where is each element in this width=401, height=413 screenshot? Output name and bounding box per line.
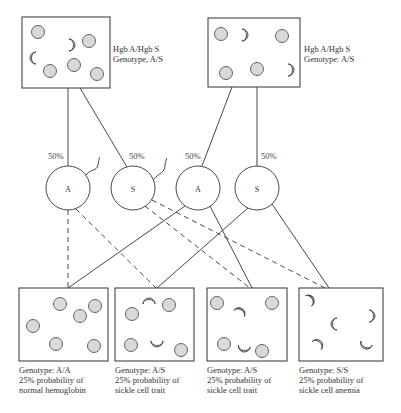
gamete-4-percent: 50% bbox=[261, 151, 277, 161]
offspring-4-label: Genotype: S/S 25% probability of sickle … bbox=[299, 365, 363, 395]
offspring-4-outcome: sickle cell anemia bbox=[299, 385, 363, 395]
gamete-3-percent: 50% bbox=[185, 151, 201, 161]
gamete-1-allele: A bbox=[65, 185, 71, 194]
dashed-lines bbox=[68, 200, 325, 288]
gamete-2-allele: S bbox=[131, 185, 135, 194]
offspring-4-probability: 25% probability of bbox=[299, 375, 363, 385]
solid-lines bbox=[68, 204, 329, 288]
gamete-4-allele: S bbox=[255, 185, 259, 194]
offspring-3-outcome: sickle cell trait bbox=[207, 385, 271, 395]
parent-1-genotype: Genotype, A/S bbox=[113, 54, 163, 64]
offspring-1-genotype: Genotype: A/A bbox=[19, 365, 86, 375]
offspring-2-outcome: sickle cell trait bbox=[115, 385, 179, 395]
offspring-3-label: Genotype: A/S 25% probability of sickle … bbox=[207, 365, 271, 395]
offspring-2-label: Genotype: A/S 25% probability of sickle … bbox=[115, 365, 179, 395]
offspring-4-genotype: Genotype: S/S bbox=[299, 365, 363, 375]
inheritance-diagram: Hgb A/Hgb S Genotype, A/S Hgb A/Hgb S Ge… bbox=[0, 0, 401, 413]
parent-2-hgb: Hgb A/Hgb S bbox=[304, 44, 354, 54]
offspring-1-outcome: normal hemoglobin bbox=[19, 385, 86, 395]
gamete-3-allele: A bbox=[195, 185, 201, 194]
parent-1-label: Hgb A/Hgb S Genotype, A/S bbox=[113, 44, 163, 64]
gamete-2-percent: 50% bbox=[129, 151, 145, 161]
offspring-2-genotype: Genotype: A/S bbox=[115, 365, 179, 375]
offspring-1-probability: 25% probability of bbox=[19, 375, 86, 385]
parent-1-hgb: Hgb A/Hgb S bbox=[113, 44, 163, 54]
parent-gamete-lines bbox=[68, 87, 257, 167]
gametes bbox=[46, 157, 279, 210]
offspring-3-genotype: Genotype: A/S bbox=[207, 365, 271, 375]
offspring-4-box bbox=[299, 288, 383, 361]
parent-2-label: Hgb A/Hgb S Genotype: A/S bbox=[304, 44, 354, 64]
offspring-1-label: Genotype: A/A 25% probability of normal … bbox=[19, 365, 86, 395]
offspring-2-probability: 25% probability of bbox=[115, 375, 179, 385]
offspring-3-probability: 25% probability of bbox=[207, 375, 271, 385]
parent-2-genotype: Genotype: A/S bbox=[304, 54, 354, 64]
gamete-1-percent: 50% bbox=[48, 151, 64, 161]
